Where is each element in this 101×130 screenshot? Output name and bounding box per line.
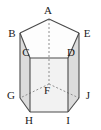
vertex-label-D: D	[67, 47, 75, 58]
vertex-label-G: G	[7, 90, 15, 101]
vertex-label-E: E	[84, 28, 91, 39]
vertex-label-F: F	[44, 85, 50, 96]
pentagonal-prism-figure: A B C D E F G H I J	[0, 0, 101, 130]
vertex-label-A: A	[44, 5, 52, 16]
vertex-label-I: I	[66, 115, 70, 126]
vertex-label-H: H	[25, 115, 33, 126]
prism-drawing	[0, 0, 101, 130]
vertex-label-B: B	[8, 28, 15, 39]
vertex-label-C: C	[22, 47, 29, 58]
vertex-label-J: J	[86, 90, 90, 101]
